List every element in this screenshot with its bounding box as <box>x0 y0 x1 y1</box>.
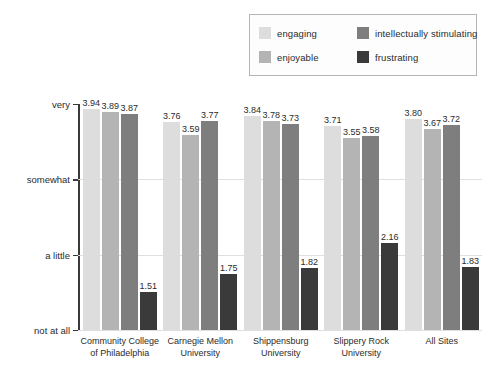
bar-value-label: 3.71 <box>324 115 342 125</box>
bar-column[interactable]: 3.55 <box>343 104 360 330</box>
y-axis-label: not at all <box>34 325 70 336</box>
legend-swatch-intellectually-stimulating <box>357 27 369 39</box>
bar-value-label: 3.76 <box>163 111 181 121</box>
bar-groups: 3.943.893.871.51Community Collegeof Phil… <box>80 104 482 330</box>
bar-group: 3.763.593.771.75Carnegie MellonUniversit… <box>160 104 240 330</box>
x-axis-category-label: Community Collegeof Philadelphia <box>81 336 160 359</box>
bar-group: 3.713.553.582.16Slippery RockUniversity <box>321 104 401 330</box>
bar-column[interactable]: 3.80 <box>405 104 422 330</box>
bar-column[interactable]: 1.83 <box>462 104 479 330</box>
bar-column[interactable]: 3.89 <box>102 104 119 330</box>
legend-label-frustrating: frustrating <box>375 52 418 63</box>
legend-item-enjoyable: enjoyable <box>259 45 357 69</box>
y-axis-tick <box>73 104 78 105</box>
legend-item-engaging: engaging <box>259 21 357 45</box>
bar[interactable] <box>343 138 360 330</box>
bar[interactable] <box>405 119 422 330</box>
bar-column[interactable]: 1.82 <box>301 104 318 330</box>
bar-column[interactable]: 3.94 <box>83 104 100 330</box>
bar-column[interactable]: 3.59 <box>182 104 199 330</box>
bar[interactable] <box>140 292 157 330</box>
bar[interactable] <box>102 112 119 330</box>
bar[interactable] <box>182 135 199 330</box>
x-axis-category-label: ShippensburgUniversity <box>253 336 309 359</box>
bar-column[interactable]: 3.71 <box>324 104 341 330</box>
bar-value-label: 3.87 <box>121 103 139 113</box>
bar-group-bars: 3.763.593.771.75 <box>160 104 240 330</box>
x-axis-category-label: Slippery RockUniversity <box>334 336 390 359</box>
bar-value-label: 3.73 <box>282 113 300 123</box>
legend-swatch-frustrating <box>357 51 369 63</box>
legend-item-frustrating: frustrating <box>357 45 487 69</box>
bar-value-label: 3.78 <box>263 110 281 120</box>
y-axis-label: somewhat <box>27 174 70 185</box>
bar[interactable] <box>282 124 299 330</box>
bar-group-bars: 3.803.673.721.83 <box>402 104 482 330</box>
bar-group: 3.843.783.731.82ShippensburgUniversity <box>241 104 321 330</box>
bar-column[interactable]: 3.77 <box>201 104 218 330</box>
bar-column[interactable]: 3.72 <box>443 104 460 330</box>
bar-value-label: 3.67 <box>424 118 442 128</box>
bar-column[interactable]: 3.84 <box>244 104 261 330</box>
legend-swatch-engaging <box>259 27 271 39</box>
y-axis-tick <box>73 330 78 331</box>
bar-value-label: 1.75 <box>220 263 238 273</box>
gridline <box>78 330 482 331</box>
bar-group-bars: 3.843.783.731.82 <box>241 104 321 330</box>
bar[interactable] <box>83 109 100 330</box>
bar[interactable] <box>201 121 218 330</box>
bar[interactable] <box>443 125 460 330</box>
bar-column[interactable]: 3.73 <box>282 104 299 330</box>
y-axis-tick <box>73 179 78 180</box>
bar-column[interactable]: 1.75 <box>220 104 237 330</box>
legend-label-engaging: engaging <box>277 28 317 39</box>
legend-label-intellectually-stimulating: intellectually stimulating <box>375 28 477 39</box>
x-axis-category-label: Carnegie MellonUniversity <box>168 336 234 359</box>
bar-value-label: 3.55 <box>343 127 361 137</box>
bar-value-label: 2.16 <box>381 232 399 242</box>
bar-value-label: 3.89 <box>102 101 120 111</box>
bar-value-label: 3.84 <box>244 105 262 115</box>
bar-value-label: 3.72 <box>443 114 461 124</box>
bar[interactable] <box>263 121 280 330</box>
bar-column[interactable]: 1.51 <box>140 104 157 330</box>
legend-label-enjoyable: enjoyable <box>277 52 319 63</box>
bar-column[interactable]: 3.78 <box>263 104 280 330</box>
bar-value-label: 1.82 <box>301 257 319 267</box>
bar[interactable] <box>220 274 237 331</box>
bar-group: 3.943.893.871.51Community Collegeof Phil… <box>80 104 160 330</box>
bar[interactable] <box>462 267 479 330</box>
bar-column[interactable]: 2.16 <box>381 104 398 330</box>
bar-value-label: 3.77 <box>201 110 219 120</box>
bar-column[interactable]: 3.76 <box>163 104 180 330</box>
bar-group: 3.803.673.721.83All Sites <box>402 104 482 330</box>
bar-value-label: 1.83 <box>462 256 480 266</box>
bar[interactable] <box>324 126 341 330</box>
bar-column[interactable]: 3.58 <box>362 104 379 330</box>
legend-swatch-enjoyable <box>259 51 271 63</box>
bar-group-bars: 3.943.893.871.51 <box>80 104 160 330</box>
bar[interactable] <box>381 243 398 330</box>
bar-column[interactable]: 3.67 <box>424 104 441 330</box>
bar-value-label: 3.80 <box>405 108 423 118</box>
bar[interactable] <box>244 116 261 330</box>
bar[interactable] <box>163 122 180 330</box>
bar-group-bars: 3.713.553.582.16 <box>321 104 401 330</box>
bar[interactable] <box>121 114 138 330</box>
y-axis-tick <box>73 255 78 256</box>
bar-value-label: 1.51 <box>140 281 158 291</box>
y-axis-label: a little <box>45 249 70 260</box>
legend-item-intellectually-stimulating: intellectually stimulating <box>357 21 487 45</box>
legend-grid: engaging intellectually stimulating enjo… <box>250 15 476 75</box>
bar-chart-plot-area: verysomewhata littlenot at all 3.943.893… <box>78 104 482 330</box>
bar-value-label: 3.94 <box>83 98 101 108</box>
chart-legend: engaging intellectually stimulating enjo… <box>249 14 477 76</box>
bar[interactable] <box>301 268 318 330</box>
bar[interactable] <box>424 129 441 330</box>
bar-value-label: 3.58 <box>362 125 380 135</box>
y-axis-label: very <box>52 99 70 110</box>
x-axis-category-label: All Sites <box>426 336 459 348</box>
bar[interactable] <box>362 136 379 330</box>
bar-column[interactable]: 3.87 <box>121 104 138 330</box>
bar-value-label: 3.59 <box>182 124 200 134</box>
